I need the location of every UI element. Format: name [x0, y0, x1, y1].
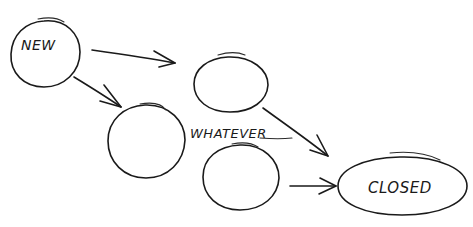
annotation-text: WHATEVER: [190, 126, 267, 141]
state-diagram: NEW CLOSED WHATEVER: [0, 0, 473, 227]
node-state-a: [194, 53, 268, 112]
node-closed-label: CLOSED: [368, 179, 432, 197]
edge-new-to-state-b: [74, 77, 121, 107]
node-state-b: [108, 103, 185, 178]
node-closed: CLOSED: [338, 152, 467, 215]
node-new: NEW: [11, 18, 80, 87]
edge-state-c-to-closed: [290, 178, 336, 194]
node-state-c: [203, 143, 279, 210]
annotation-whatever: WHATEVER: [190, 126, 292, 141]
edge-new-to-state-a: [92, 50, 175, 67]
edge-state-a-to-closed: [263, 108, 328, 156]
node-new-label: NEW: [21, 37, 56, 53]
